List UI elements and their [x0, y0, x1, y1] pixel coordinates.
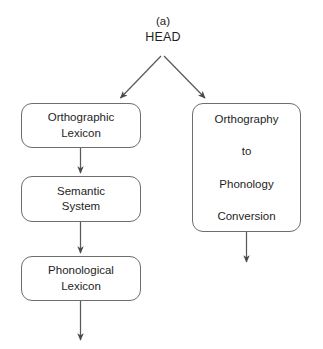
- node-orthographic-lexicon-line-2: Lexicon: [61, 126, 101, 142]
- node-phonological-lexicon-line-1: Phonological: [48, 263, 114, 279]
- edge-head-to-orthographic-lexicon: [121, 56, 162, 98]
- node-semantic-system: Semantic System: [21, 176, 141, 222]
- node-otp-conversion-line-2: to: [242, 135, 252, 168]
- node-semantic-system-line-1: Semantic: [57, 184, 105, 200]
- node-orthography-to-phonology-conversion: Orthography to Phonology Conversion: [192, 103, 301, 232]
- node-otp-conversion-line-3: Phonology: [219, 168, 273, 201]
- node-orthographic-lexicon-line-1: Orthographic: [48, 110, 114, 126]
- node-orthographic-lexicon: Orthographic Lexicon: [21, 103, 141, 148]
- edge-head-to-otp-conversion: [164, 56, 205, 98]
- node-otp-conversion-line-1: Orthography: [215, 103, 279, 136]
- node-phonological-lexicon: Phonological Lexicon: [21, 256, 141, 301]
- node-otp-conversion-line-4: Conversion: [217, 200, 275, 233]
- node-semantic-system-line-2: System: [62, 199, 100, 215]
- flowchart-diagram: (a) HEAD Orthographic Lexicon Semantic S…: [0, 0, 323, 349]
- node-phonological-lexicon-line-2: Lexicon: [61, 279, 101, 295]
